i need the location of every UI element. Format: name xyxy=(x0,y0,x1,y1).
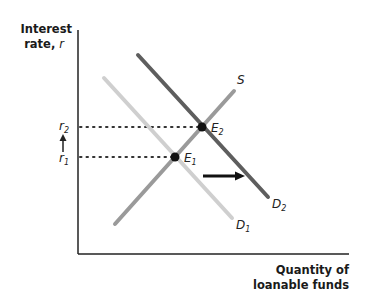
demand-curve-d1 xyxy=(104,78,232,218)
d1-label: D1 xyxy=(236,218,250,234)
y-axis-label-line1: Interest xyxy=(20,22,72,36)
up-arrowhead-icon xyxy=(60,134,67,141)
supply-label: S xyxy=(237,73,245,87)
r1-label: r1 xyxy=(59,151,69,167)
equilibrium-point-e1 xyxy=(171,153,180,162)
y-axis-label-line2: rate, r xyxy=(24,37,65,51)
e1-label: E1 xyxy=(184,151,197,167)
x-axis-label-line2: loanable funds xyxy=(253,278,349,292)
r2-label: r2 xyxy=(59,119,69,135)
e2-label: E2 xyxy=(211,121,224,137)
x-axis-label-line1: Quantity of xyxy=(276,263,350,277)
loanable-funds-diagram: Interest rate, r Quantity of loanable fu… xyxy=(0,0,370,306)
d2-label: D2 xyxy=(272,197,286,213)
equilibrium-point-e2 xyxy=(198,123,207,132)
